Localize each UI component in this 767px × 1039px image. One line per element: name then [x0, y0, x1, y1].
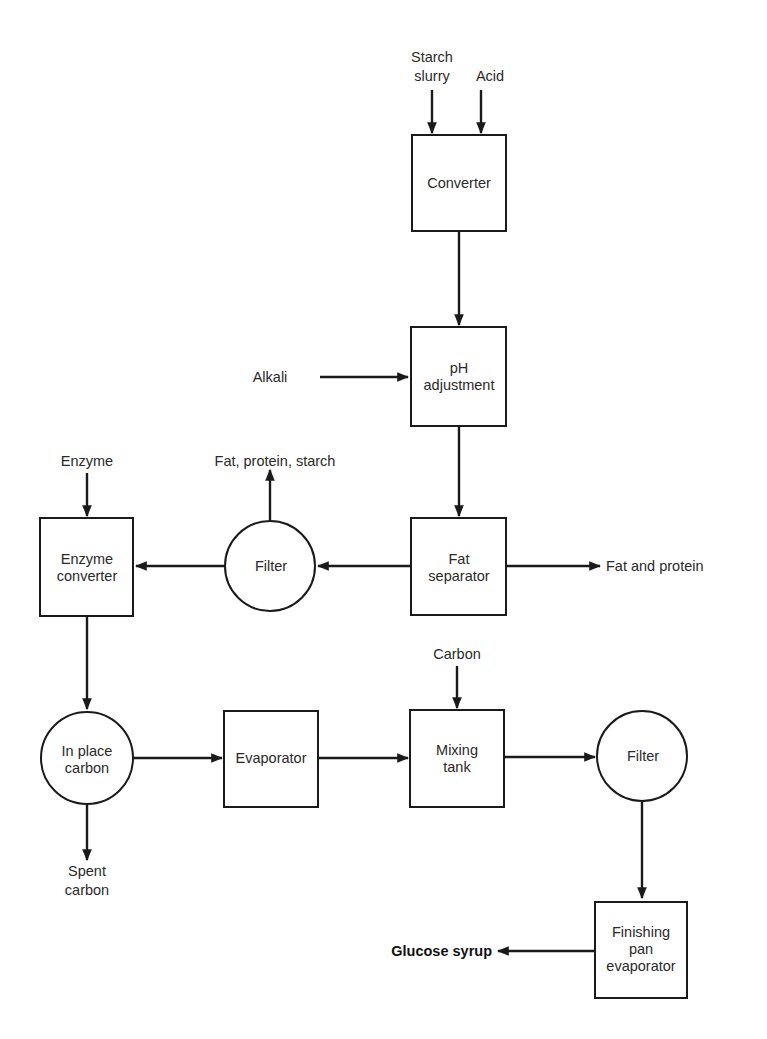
output-fat-protein-starch-label: Fat, protein, starch: [215, 453, 336, 469]
node-mixing-tank-label-2: tank: [443, 759, 471, 775]
node-evaporator: Evaporator: [224, 711, 318, 807]
node-enzyme-converter-label-2: converter: [57, 568, 118, 584]
output-spent-carbon-label-1: Spent: [68, 863, 106, 879]
node-ph-adjustment-label-2: adjustment: [424, 377, 495, 393]
node-finishing-pan-evaporator: Finishing pan evaporator: [595, 902, 687, 998]
node-fat-separator-label-2: separator: [428, 568, 489, 584]
node-finishing-pan-label-3: evaporator: [606, 958, 675, 974]
node-filter-1: Filter: [225, 521, 315, 611]
node-in-place-carbon-label-2: carbon: [65, 760, 109, 776]
node-ph-adjustment-label-1: pH: [450, 360, 469, 376]
node-mixing-tank-label-1: Mixing: [436, 742, 478, 758]
process-flow-diagram: Converter pH adjustment Fat separator Fi…: [0, 0, 767, 1039]
node-fat-separator: Fat separator: [411, 518, 506, 615]
node-mixing-tank: Mixing tank: [410, 710, 504, 807]
input-starch-slurry-label-2: slurry: [414, 68, 450, 84]
node-filter-1-label: Filter: [255, 558, 287, 574]
node-finishing-pan-label-2: pan: [629, 941, 653, 957]
node-ph-adjustment: pH adjustment: [411, 327, 506, 426]
node-enzyme-converter: Enzyme converter: [40, 518, 133, 616]
node-enzyme-converter-label-1: Enzyme: [61, 551, 113, 567]
input-alkali-label: Alkali: [253, 369, 288, 385]
node-in-place-carbon-label-1: In place: [62, 743, 113, 759]
input-starch-slurry-label-1: Starch: [411, 49, 453, 65]
input-enzyme-label: Enzyme: [61, 453, 113, 469]
output-glucose-syrup-label: Glucose syrup: [391, 943, 492, 959]
output-fat-and-protein-label: Fat and protein: [606, 558, 704, 574]
node-filter-2-label: Filter: [627, 748, 659, 764]
node-converter-label: Converter: [427, 175, 491, 191]
node-filter-2: Filter: [597, 711, 687, 801]
input-carbon-label: Carbon: [433, 646, 481, 662]
output-spent-carbon-label-2: carbon: [65, 882, 109, 898]
flow-lines: [87, 90, 642, 951]
node-evaporator-label: Evaporator: [236, 750, 307, 766]
node-finishing-pan-label-1: Finishing: [612, 924, 670, 940]
node-in-place-carbon: In place carbon: [41, 712, 133, 804]
input-acid-label: Acid: [476, 68, 504, 84]
node-fat-separator-label-1: Fat: [449, 551, 470, 567]
node-converter: Converter: [412, 135, 506, 231]
